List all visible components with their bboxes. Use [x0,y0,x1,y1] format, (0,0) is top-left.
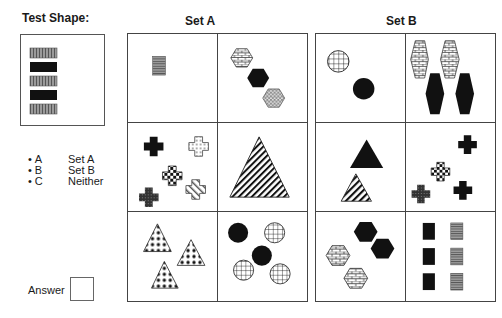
option-c[interactable]: C Neither [28,176,103,187]
test-shape-label: Test Shape: [22,11,89,25]
set-b-title: Set B [386,14,417,28]
set-a-grid [127,33,308,302]
answer-input[interactable] [70,277,94,301]
option-label: Neither [68,176,103,187]
answer-label: Answer [28,284,65,296]
set-b-cell-6 [406,212,496,301]
options-list: A Set A B Set B C Neither [28,154,103,187]
set-b-cell-4 [406,123,496,212]
set-a-cell-3 [128,123,218,212]
set-a-cell-1 [128,34,218,123]
set-b-grid [315,33,496,302]
option-key: C [28,176,68,187]
set-b-cell-5 [316,212,406,301]
set-b-cell-1 [316,34,406,123]
option-key: B [28,165,68,176]
set-a-cell-2 [218,34,308,123]
set-a-cell-4 [218,123,308,212]
set-a-title: Set A [185,14,215,28]
set-b-cell-3 [316,123,406,212]
option-key: A [28,154,68,165]
test-shape-figure [21,35,106,127]
set-a-cell-6 [218,212,308,301]
test-shape-box [20,34,105,126]
set-a-cell-5 [128,212,218,301]
set-b-cell-2 [406,34,496,123]
